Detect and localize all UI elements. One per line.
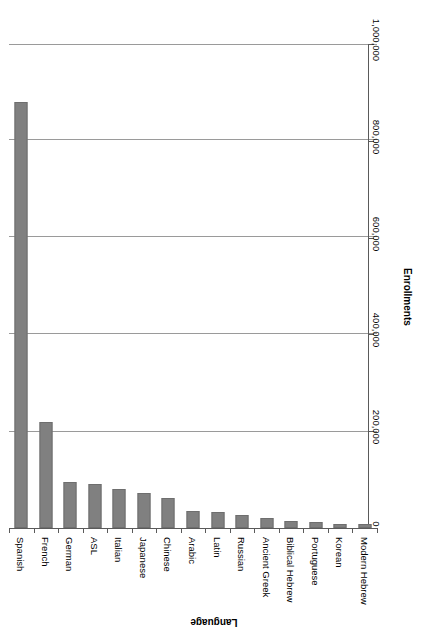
bar-chart: SpanishFrenchGermanASLItalianJapaneseChi… <box>0 0 429 634</box>
category-tick <box>34 528 35 533</box>
bar-slot <box>9 44 34 528</box>
bar-slot <box>279 44 304 528</box>
category-tick <box>156 528 157 533</box>
value-tick-label: 1,000,000 <box>371 19 381 61</box>
bar[interactable] <box>309 522 322 528</box>
bar-slot <box>132 44 157 528</box>
value-tick-label: 400,000 <box>371 313 381 347</box>
bar[interactable] <box>162 498 175 528</box>
bar-slot <box>328 44 353 528</box>
bar-slot <box>34 44 59 528</box>
bar-slot <box>156 44 181 528</box>
category-label-modern-hebrew: Modern Hebrew <box>359 537 369 605</box>
category-tick <box>303 528 304 533</box>
bar-slot <box>107 44 132 528</box>
category-tick <box>83 528 84 533</box>
category-tick <box>9 528 10 533</box>
category-label-portuguese: Portuguese <box>310 537 320 586</box>
bar[interactable] <box>186 511 199 528</box>
category-tick <box>132 528 133 533</box>
value-tick <box>369 528 374 529</box>
category-label-german: German <box>64 537 74 571</box>
category-tick <box>377 528 378 533</box>
value-tick-label: 600,000 <box>371 216 381 250</box>
bar-slot <box>230 44 255 528</box>
category-label-chinese: Chinese <box>162 537 172 572</box>
category-label-japanese: Japanese <box>138 537 148 578</box>
category-tick <box>279 528 280 533</box>
bar[interactable] <box>39 422 52 528</box>
category-label-italian: Italian <box>113 537 123 562</box>
bar[interactable] <box>285 521 298 528</box>
category-label-ancient-greek: Ancient Greek <box>261 537 271 597</box>
category-label-french: French <box>40 537 50 567</box>
value-axis-title: Enrollments <box>402 268 413 326</box>
category-tick <box>254 528 255 533</box>
bars-container <box>9 44 377 528</box>
value-tick-label: 800,000 <box>371 120 381 154</box>
bar[interactable] <box>211 512 224 528</box>
bar[interactable] <box>236 515 249 528</box>
bar[interactable] <box>113 489 126 528</box>
bar[interactable] <box>334 524 347 528</box>
bar[interactable] <box>260 518 273 528</box>
category-tick <box>328 528 329 533</box>
category-label-arabic: Arabic <box>187 537 197 564</box>
category-tick <box>205 528 206 533</box>
category-tick <box>181 528 182 533</box>
bar[interactable] <box>64 482 77 528</box>
category-label-asl: ASL <box>89 537 99 555</box>
value-tick-label: 200,000 <box>371 410 381 444</box>
category-label-russian: Russian <box>236 537 246 571</box>
bar-slot <box>205 44 230 528</box>
category-label-korean: Korean <box>334 537 344 568</box>
bar[interactable] <box>137 493 150 528</box>
category-tick <box>58 528 59 533</box>
bar-slot <box>181 44 206 528</box>
category-label-latin: Latin <box>212 537 222 558</box>
bar-slot <box>352 44 377 528</box>
category-tick <box>230 528 231 533</box>
bar[interactable] <box>88 484 101 528</box>
bar[interactable] <box>15 102 28 528</box>
bar-slot <box>83 44 108 528</box>
category-axis-title: Language <box>190 617 237 628</box>
category-axis-line <box>9 528 378 529</box>
category-label-biblical-hebrew: Biblical Hebrew <box>285 537 295 602</box>
value-tick-label: 0 <box>371 521 381 526</box>
category-label-spanish: Spanish <box>15 537 25 571</box>
bar-slot <box>303 44 328 528</box>
category-tick <box>352 528 353 533</box>
category-tick <box>107 528 108 533</box>
bar-slot <box>254 44 279 528</box>
bar-slot <box>58 44 83 528</box>
